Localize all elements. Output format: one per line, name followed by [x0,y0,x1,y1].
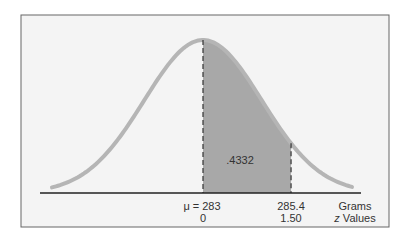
area-label: .4332 [226,154,254,166]
upper-z-label: 1.50 [280,212,301,224]
upper-grams-label: 285.4 [277,200,305,212]
axis-z-label: z Values [334,212,375,224]
mean-z-label: 0 [200,212,206,224]
mean-grams-label: μ = 283 [183,200,220,212]
axis-grams-label: Grams [339,200,372,212]
axis-z-label-text: Values [340,212,376,224]
